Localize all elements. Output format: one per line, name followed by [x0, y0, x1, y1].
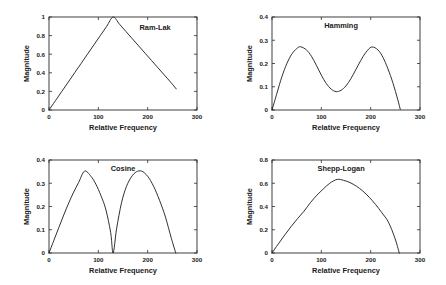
x-axis-title-shepp-logan: Relative Frequency [312, 266, 381, 275]
x-tick-label-shepp-logan-2: 200 [366, 256, 377, 263]
y-tick-label-shepp-logan-2: 0.4 [259, 203, 268, 210]
y-tick-label-cosine-2: 0.2 [36, 203, 45, 210]
y-axis-title-shepp-logan: Magnitude [245, 188, 254, 225]
x-tick-label-hamming-2: 200 [366, 113, 377, 120]
y-tick-label-hamming-0: 0 [265, 106, 269, 113]
x-tick-label-cosine-3: 300 [192, 256, 203, 263]
x-axis-title-ram-lak: Relative Frequency [89, 123, 158, 132]
y-axis-title-cosine: Magnitude [22, 188, 31, 225]
chart-svg-cosine: 010020030000.10.20.30.4Relative Frequenc… [0, 143, 223, 285]
panel-title-hamming: Hamming [324, 21, 358, 30]
y-tick-label-shepp-logan-0: 0 [265, 249, 269, 256]
x-axis-title-cosine: Relative Frequency [89, 266, 158, 275]
x-tick-label-cosine-2: 200 [143, 256, 154, 263]
panel-title-cosine: Cosine [111, 164, 136, 173]
plot-frame-shepp-logan [272, 160, 420, 253]
y-tick-label-shepp-logan-4: 0.8 [259, 156, 268, 163]
x-tick-label-shepp-logan-3: 300 [415, 256, 426, 263]
y-tick-label-ram-lak-0: 0 [42, 106, 46, 113]
chart-svg-hamming: 010020030000.10.20.30.4Relative Frequenc… [223, 0, 446, 142]
y-tick-label-cosine-0: 0 [42, 249, 46, 256]
x-tick-label-ram-lak-2: 200 [143, 113, 154, 120]
y-axis-title-hamming: Magnitude [245, 45, 254, 82]
x-tick-label-shepp-logan-0: 0 [270, 256, 274, 263]
y-tick-label-hamming-4: 0.4 [259, 13, 268, 20]
x-tick-label-hamming-1: 100 [316, 113, 327, 120]
x-tick-label-hamming-0: 0 [270, 113, 274, 120]
y-tick-label-ram-lak-4: 0.8 [36, 32, 45, 39]
y-tick-label-hamming-2: 0.2 [259, 60, 268, 67]
y-tick-label-shepp-logan-1: 0.2 [259, 226, 268, 233]
panel-title-shepp-logan: Shepp-Logan [317, 164, 365, 173]
y-tick-label-ram-lak-5: 1 [42, 13, 46, 20]
x-tick-label-ram-lak-3: 300 [192, 113, 203, 120]
x-tick-label-cosine-0: 0 [47, 256, 51, 263]
data-curve-shepp-logan [272, 179, 399, 253]
chart-panel-shepp-logan: 010020030000.20.40.60.8Relative Frequenc… [223, 143, 446, 285]
y-tick-label-hamming-3: 0.3 [259, 37, 268, 44]
y-tick-label-shepp-logan-3: 0.6 [259, 180, 268, 187]
x-tick-label-shepp-logan-1: 100 [316, 256, 327, 263]
y-tick-label-ram-lak-2: 0.4 [36, 69, 45, 76]
y-tick-label-cosine-1: 0.1 [36, 226, 45, 233]
x-tick-label-ram-lak-0: 0 [47, 113, 51, 120]
chart-panel-ram-lak: 010020030000.20.40.60.81Relative Frequen… [0, 0, 223, 142]
y-tick-label-ram-lak-1: 0.2 [36, 88, 45, 95]
y-tick-label-cosine-3: 0.3 [36, 180, 45, 187]
data-curve-hamming [272, 47, 400, 110]
data-curve-cosine [49, 171, 176, 253]
plot-frame-hamming [272, 17, 420, 110]
x-axis-title-hamming: Relative Frequency [312, 123, 381, 132]
y-axis-title-ram-lak: Magnitude [22, 45, 31, 82]
x-tick-label-hamming-3: 300 [415, 113, 426, 120]
plot-frame-ram-lak [49, 17, 197, 110]
y-tick-label-ram-lak-3: 0.6 [36, 51, 45, 58]
panel-title-ram-lak: Ram-Lak [139, 23, 171, 32]
y-tick-label-cosine-4: 0.4 [36, 156, 45, 163]
chart-panel-cosine: 010020030000.10.20.30.4Relative Frequenc… [0, 143, 223, 285]
plot-frame-cosine [49, 160, 197, 253]
x-tick-label-ram-lak-1: 100 [93, 113, 104, 120]
chart-panel-hamming: 010020030000.10.20.30.4Relative Frequenc… [223, 0, 446, 142]
x-tick-label-cosine-1: 100 [93, 256, 104, 263]
y-tick-label-hamming-1: 0.1 [259, 83, 268, 90]
chart-svg-ram-lak: 010020030000.20.40.60.81Relative Frequen… [0, 0, 223, 142]
filter-kernel-figure: 010020030000.20.40.60.81Relative Frequen… [0, 0, 446, 285]
chart-svg-shepp-logan: 010020030000.20.40.60.8Relative Frequenc… [223, 143, 446, 285]
